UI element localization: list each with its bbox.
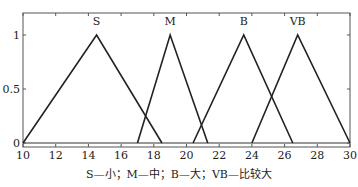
y-tick-label: 0 <box>13 137 20 150</box>
series-b <box>193 35 293 143</box>
series-vb <box>252 35 350 143</box>
axis-ticks: 101214161820222426283000.51 <box>3 13 358 162</box>
series-lines <box>23 35 350 143</box>
series-labels: SMBVB <box>93 15 306 28</box>
y-tick-label: 0.5 <box>3 83 21 96</box>
x-tick-label: 22 <box>212 149 226 162</box>
series-s <box>23 35 162 143</box>
x-tick-label: 10 <box>16 149 30 162</box>
x-tick-label: 30 <box>343 149 357 162</box>
x-tick-label: 20 <box>180 149 194 162</box>
membership-function-chart: 101214161820222426283000.51 SMBVB <box>0 0 358 187</box>
x-tick-label: 28 <box>310 149 324 162</box>
x-tick-label: 16 <box>114 149 128 162</box>
y-tick-label: 1 <box>13 29 20 42</box>
x-tick-label: 14 <box>81 149 95 162</box>
series-label-m: M <box>165 15 176 28</box>
x-tick-label: 24 <box>245 149 259 162</box>
x-tick-label: 12 <box>49 149 63 162</box>
series-m <box>137 35 207 143</box>
series-label-vb: VB <box>289 15 306 28</box>
x-tick-label: 26 <box>278 149 292 162</box>
series-label-b: B <box>240 15 248 28</box>
x-tick-label: 18 <box>147 149 161 162</box>
chart-caption: S—小；M—中；B—大；VB—比较大 <box>0 165 358 181</box>
series-label-s: S <box>93 15 101 28</box>
